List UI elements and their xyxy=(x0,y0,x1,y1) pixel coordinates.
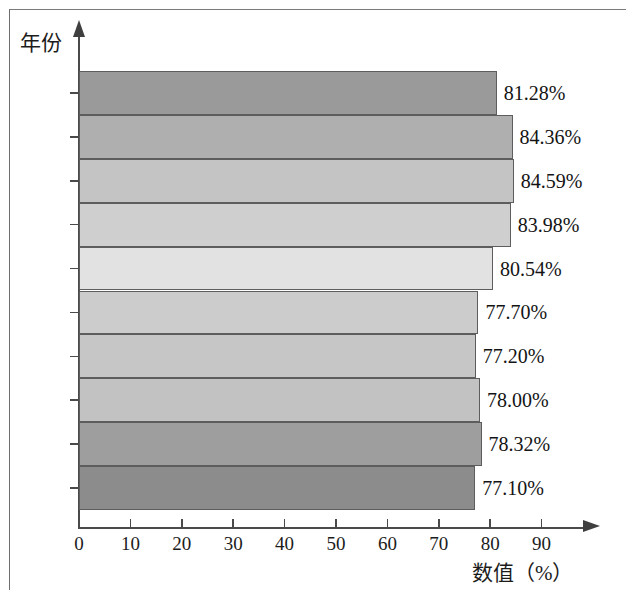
bar-2015 xyxy=(79,291,478,335)
x-axis-tick-label: 80 xyxy=(481,533,500,555)
x-axis-tick-label: 50 xyxy=(327,533,346,555)
y-axis-arrow-icon xyxy=(73,20,85,37)
bar-value-label-2011: 77.10% xyxy=(482,477,544,500)
bar-value-label-2017: 83.98% xyxy=(518,213,580,236)
x-axis-line xyxy=(78,527,586,529)
y-axis-tick xyxy=(70,180,79,182)
x-axis-tick xyxy=(438,519,440,528)
x-axis-tick-label: 40 xyxy=(275,533,294,555)
x-axis-tick-label: 30 xyxy=(224,533,243,555)
bar-2017 xyxy=(79,203,511,247)
bar-2019 xyxy=(79,115,513,159)
y-axis-tick xyxy=(70,356,79,358)
bar-value-label-2014: 77.20% xyxy=(483,345,545,368)
x-axis-tick-label: 10 xyxy=(121,533,140,555)
x-axis-tick-label: 90 xyxy=(532,533,551,555)
bar-2014 xyxy=(79,334,476,378)
x-axis-arrow-icon xyxy=(583,520,600,532)
bar-value-label-2013: 78.00% xyxy=(487,389,549,412)
x-axis-tick xyxy=(181,519,183,528)
bar-value-label-2020: 81.28% xyxy=(504,81,566,104)
bar-2011 xyxy=(79,466,475,510)
bar-2018 xyxy=(79,159,514,203)
y-axis-tick xyxy=(70,268,79,270)
bar-2020 xyxy=(79,71,497,115)
x-axis-tick xyxy=(541,519,543,528)
x-axis-tick xyxy=(387,519,389,528)
x-axis-tick-label: 20 xyxy=(172,533,191,555)
bar-2016 xyxy=(79,247,493,291)
x-axis-tick xyxy=(335,519,337,528)
chart-page: 年份 数值（%） 81.28%84.36%84.59%83.98%80.54%7… xyxy=(0,0,628,592)
y-axis-tick xyxy=(70,443,79,445)
y-axis-tick xyxy=(70,92,79,94)
x-axis-title: 数值（%） xyxy=(472,556,574,586)
x-axis-tick xyxy=(232,519,234,528)
x-axis-tick-label: 60 xyxy=(378,533,397,555)
y-axis-title: 年份 xyxy=(20,26,62,56)
bar-value-label-2015: 77.70% xyxy=(485,301,547,324)
y-axis-tick xyxy=(70,136,79,138)
y-axis-tick xyxy=(70,312,79,314)
x-axis-tick xyxy=(130,519,132,528)
bar-2012 xyxy=(79,422,482,466)
x-axis-tick xyxy=(284,519,286,528)
x-axis-tick xyxy=(78,519,80,528)
bar-value-label-2016: 80.54% xyxy=(500,257,562,280)
y-axis-tick xyxy=(70,399,79,401)
bar-value-label-2018: 84.59% xyxy=(521,169,583,192)
x-axis-tick xyxy=(489,519,491,528)
bar-chart-plot-area: 年份 数值（%） 81.28%84.36%84.59%83.98%80.54%7… xyxy=(0,0,628,592)
y-axis-tick xyxy=(70,224,79,226)
x-axis-tick-label: 70 xyxy=(429,533,448,555)
x-axis-tick-label: 0 xyxy=(74,533,84,555)
bar-value-label-2019: 84.36% xyxy=(520,125,582,148)
bar-2013 xyxy=(79,378,480,422)
bar-value-label-2012: 78.32% xyxy=(489,433,551,456)
y-axis-tick xyxy=(70,487,79,489)
